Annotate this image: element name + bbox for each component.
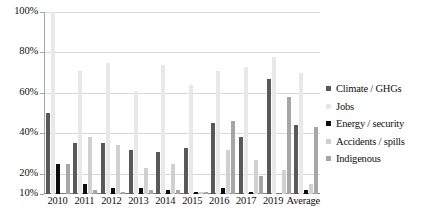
bar-group [44,12,72,194]
bar [101,143,105,194]
legend-label: Indigenous [336,153,381,164]
bar [309,184,313,194]
bar [194,192,198,194]
bar [254,160,258,194]
x-axis-tick-label: 2015 [179,195,206,206]
x-axis-tick-label: 2010 [44,195,71,206]
legend-item[interactable]: Jobs [326,98,426,116]
bar-group [99,12,127,194]
legend-label: Accidents / spills [336,136,405,147]
bar [106,63,110,194]
legend-swatch-icon [326,104,331,109]
bar [144,168,148,194]
bar [184,148,188,195]
bar [83,184,87,194]
bar-groups [44,12,320,194]
bar [116,145,120,194]
bar [267,79,271,194]
bar-group [154,12,182,194]
bar-group [292,12,320,194]
y-axis-tick-label: 20% [0,167,38,178]
bar [199,192,203,194]
bar-group [265,12,293,194]
bar [93,190,97,194]
bar [287,97,291,194]
bar-chart: 10%20%40%60%80%100% 20102011201220132014… [0,0,426,224]
y-axis-tick-label: 40% [0,126,38,137]
bar [139,188,143,194]
x-axis-tick-label: 2014 [152,195,179,206]
plot-area [44,12,320,194]
y-axis-labels: 10%20%40%60%80%100% [0,12,40,194]
bar [129,150,133,194]
x-axis-tick-label: Average [287,195,320,206]
bar [259,176,263,194]
bar [121,192,125,194]
x-axis-labels: 201020112012201320142015201620172019Aver… [44,195,320,206]
bar [314,127,318,194]
bar-group [210,12,238,194]
bar [46,113,50,194]
legend-swatch-icon [326,86,331,91]
bar [272,57,276,195]
legend-item[interactable]: Indigenous [326,150,426,168]
bar [161,65,165,194]
bar [216,71,220,194]
bar [134,91,138,194]
y-axis-tick-label: 80% [0,45,38,56]
bar [88,137,92,194]
x-axis-tick-label: 2011 [71,195,98,206]
bar [149,190,153,194]
legend-item[interactable]: Accidents / spills [326,133,426,151]
legend-swatch-icon [326,139,331,144]
x-axis-tick-label: 2017 [233,195,260,206]
bar [189,85,193,194]
legend-label: Jobs [336,101,354,112]
x-axis-tick-label: 2012 [98,195,125,206]
legend-item[interactable]: Energy / security [326,115,426,133]
bar [66,164,70,194]
bar [78,71,82,194]
bar [73,143,77,194]
bar [239,137,243,194]
bar-group [237,12,265,194]
bar [166,190,170,194]
x-axis-tick-label: 2013 [125,195,152,206]
bar [171,164,175,194]
y-axis-tick-label: 100% [0,5,38,16]
bar [204,192,208,194]
bar-group [127,12,155,194]
legend-label: Climate / GHGs [336,83,401,94]
y-axis-tick-label: 10% [0,187,38,198]
y-axis-tick-label: 60% [0,86,38,97]
bar-group [182,12,210,194]
bar [231,121,235,194]
legend-swatch-icon [326,121,331,126]
bar [56,164,60,194]
bar [294,125,298,194]
bar [282,170,286,194]
bar-group [72,12,100,194]
bar [156,152,160,194]
bar [211,123,215,194]
bar [249,192,253,194]
x-axis-tick-label: 2016 [206,195,233,206]
legend-swatch-icon [326,156,331,161]
bar [176,190,180,194]
legend-label: Energy / security [336,118,404,129]
bar [299,73,303,194]
chart-legend: Climate / GHGsJobsEnergy / securityAccid… [326,80,426,168]
bar [221,188,225,194]
bar [51,12,55,194]
bar [244,67,248,194]
bar [111,188,115,194]
legend-item[interactable]: Climate / GHGs [326,80,426,98]
x-axis-tick-label: 2019 [260,195,287,206]
bar [226,150,230,194]
bar [304,190,308,194]
